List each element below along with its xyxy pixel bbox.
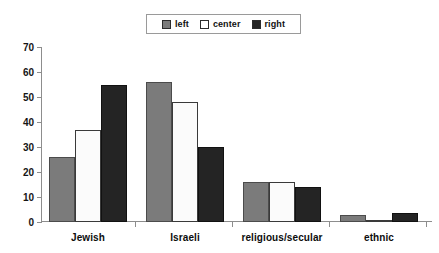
bar-left-3 [340,215,366,223]
legend-label-right: right [265,20,286,29]
y-tick-label: 50 [23,92,34,103]
bar-center-2 [269,182,295,222]
y-tick-mark [37,47,42,48]
bar-group-israeli [146,47,224,222]
legend-label-center: center [213,20,241,29]
legend-item-left: left [162,20,189,29]
bar-left-1 [146,82,172,222]
y-tick-mark [37,97,42,98]
legend-label-left: left [175,20,189,29]
x-axis-label-ethnic: ethnic [364,232,394,243]
x-tick-mark [232,222,233,227]
bar-chart: left center right 010203040506070 Jewish… [0,0,439,253]
y-tick-mark [37,72,42,73]
y-tick-mark [37,172,42,173]
bar-group-jewish [49,47,127,222]
y-tick-mark [37,197,42,198]
x-axis-label-israeli: Israeli [170,232,200,243]
y-tick-label: 0 [28,217,34,228]
y-axis-line [41,47,42,222]
chart-legend: left center right [146,14,301,34]
x-tick-mark [426,222,427,227]
y-tick-label: 10 [23,192,34,203]
bar-left-0 [49,157,75,222]
bar-right-3 [392,213,418,222]
plot-area: 010203040506070 [41,47,432,222]
bar-group-religious-secular [243,47,321,222]
y-tick-mark [37,122,42,123]
x-tick-mark [329,222,330,227]
bar-right-1 [198,147,224,222]
y-tick-label: 30 [23,142,34,153]
legend-swatch-right-icon [252,20,261,29]
y-tick-label: 40 [23,117,34,128]
y-tick-label: 70 [23,42,34,53]
legend-item-center: center [200,20,241,29]
bar-center-3 [366,220,392,223]
y-tick-label: 60 [23,67,34,78]
bar-center-0 [75,130,101,223]
bar-left-2 [243,182,269,222]
bar-group-ethnic [340,47,418,222]
bar-right-0 [101,85,127,223]
y-tick-mark [37,222,42,223]
y-tick-label: 20 [23,167,34,178]
legend-swatch-left-icon [162,20,171,29]
bar-right-2 [295,187,321,222]
x-tick-mark [135,222,136,227]
bar-center-1 [172,102,198,222]
x-axis-label-religious-secular: religious/secular [241,232,322,243]
legend-swatch-center-icon [200,20,209,29]
y-tick-mark [37,147,42,148]
x-axis-label-jewish: Jewish [71,232,105,243]
legend-item-right: right [252,20,286,29]
